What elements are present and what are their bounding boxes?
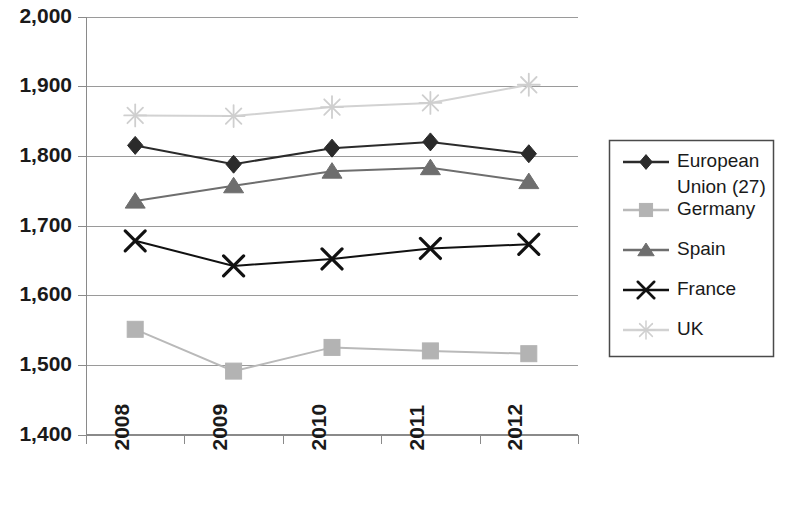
- data-point-marker: [223, 105, 245, 127]
- y-axis-tick-label: 1,600: [19, 282, 72, 305]
- legend-item-european-union-27[interactable]: EuropeanUnion (27): [623, 150, 766, 197]
- y-axis-tick-label: 2,000: [19, 4, 72, 27]
- chart-axes: [86, 17, 578, 436]
- legend-item-spain[interactable]: Spain: [623, 238, 726, 259]
- series-spain: [125, 159, 539, 208]
- data-point-marker: [419, 92, 441, 114]
- data-point-marker: [226, 363, 242, 379]
- legend-item-label: UK: [677, 318, 704, 339]
- y-axis-tick-label: 1,400: [19, 422, 72, 445]
- data-point-marker: [518, 74, 540, 96]
- y-axis-tick-label: 1,900: [19, 73, 72, 96]
- data-point-marker: [640, 155, 653, 170]
- data-point-marker: [124, 104, 146, 126]
- legend-item-label: France: [677, 278, 736, 299]
- x-axis-tick-labels: 20082009201020112012: [110, 403, 527, 450]
- legend-item-label: European: [677, 150, 759, 171]
- data-point-marker: [324, 139, 339, 157]
- y-axis-tick-label: 1,500: [19, 352, 72, 375]
- data-point-marker: [422, 343, 438, 359]
- x-axis-tick-label: 2011: [405, 405, 428, 451]
- data-point-marker: [423, 133, 438, 151]
- x-axis-tick-label: 2012: [503, 404, 526, 451]
- data-point-marker: [420, 159, 440, 175]
- legend-item-label: Spain: [677, 238, 726, 259]
- data-point-marker: [321, 96, 343, 118]
- data-point-marker: [127, 321, 143, 337]
- gridlines: [78, 18, 578, 436]
- data-point-marker: [226, 155, 241, 173]
- series-line: [135, 241, 529, 266]
- data-point-marker: [521, 346, 537, 362]
- legend-item-germany[interactable]: Germany: [623, 198, 756, 219]
- data-point-marker: [128, 136, 143, 154]
- legend-item-uk[interactable]: UK: [623, 318, 704, 339]
- series-germany: [127, 321, 537, 379]
- y-axis-tick-label: 1,800: [19, 143, 72, 166]
- data-point-marker: [125, 231, 145, 251]
- data-point-marker: [639, 203, 652, 216]
- x-axis-tick-label: 2009: [208, 404, 231, 451]
- legend-item-france[interactable]: France: [623, 278, 736, 299]
- x-axis-tick-label: 2010: [307, 404, 330, 451]
- chart-canvas: 1,4001,5001,6001,7001,8001,9002,000 2008…: [0, 0, 785, 507]
- chart-legend: EuropeanUnion (27)GermanySpainFranceUK: [610, 141, 774, 357]
- y-axis-tick-labels: 1,4001,5001,6001,7001,8001,9002,000: [19, 4, 72, 445]
- series-france: [125, 231, 539, 276]
- series-uk: [124, 74, 540, 127]
- legend-item-label-continued: Union (27): [677, 176, 766, 197]
- x-axis-tick-label: 2008: [110, 403, 133, 450]
- y-axis-tick-label: 1,700: [19, 213, 72, 236]
- data-point-marker: [521, 145, 536, 163]
- data-point-marker: [637, 321, 655, 339]
- data-point-marker: [324, 339, 340, 355]
- line-chart: 1,4001,5001,6001,7001,8001,9002,000 2008…: [0, 0, 785, 507]
- legend-item-label: Germany: [677, 198, 756, 219]
